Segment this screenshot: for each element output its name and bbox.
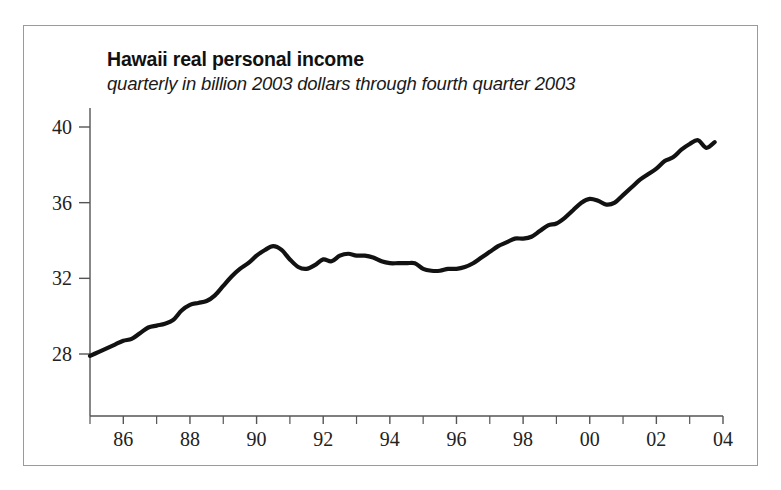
y-tick-label: 32: [52, 267, 72, 289]
y-axis: 28323640: [52, 108, 90, 416]
y-tick-label: 28: [52, 343, 72, 365]
x-tick-label: 94: [380, 428, 400, 450]
y-tick-label: 36: [52, 192, 72, 214]
line-chart-plot: 28323640 86889092949698000204: [24, 26, 759, 467]
x-tick-label: 92: [313, 428, 333, 450]
x-tick-label: 90: [247, 428, 267, 450]
chart-page: Hawaii real personal income quarterly in…: [0, 0, 781, 490]
x-tick-label: 00: [580, 428, 600, 450]
x-tick-label: 04: [713, 428, 733, 450]
x-tick-label: 86: [113, 428, 133, 450]
data-series-group: [90, 140, 715, 356]
x-tick-label: 02: [646, 428, 666, 450]
x-tick-label: 96: [446, 428, 466, 450]
income-line: [90, 140, 715, 356]
x-tick-label: 88: [180, 428, 200, 450]
figure-frame: Hawaii real personal income quarterly in…: [23, 25, 758, 466]
x-tick-label: 98: [513, 428, 533, 450]
y-tick-label: 40: [52, 116, 72, 138]
x-axis: 86889092949698000204: [90, 416, 733, 450]
